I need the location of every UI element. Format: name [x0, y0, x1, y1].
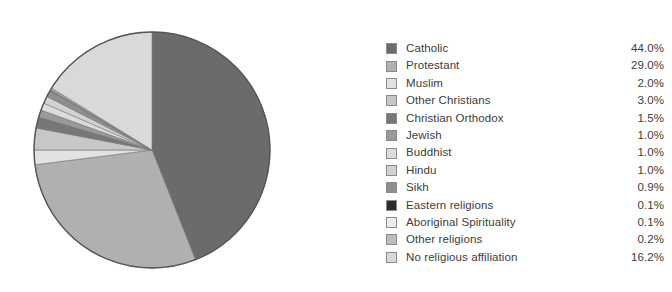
- legend-item[interactable]: Protestant29.0%: [386, 57, 664, 74]
- legend-item-label: Sikh: [406, 179, 612, 196]
- legend-item-value: 1.0%: [612, 162, 664, 179]
- legend-item-value: 29.0%: [612, 57, 664, 74]
- legend-item-label: Eastern religions: [406, 197, 612, 214]
- legend-item-value: 0.1%: [612, 197, 664, 214]
- legend-item[interactable]: Other religions0.2%: [386, 231, 664, 248]
- legend-item[interactable]: Christian Orthodox1.5%: [386, 110, 664, 127]
- pie-chart-figure: Catholic44.0%Protestant29.0%Muslim2.0%Ot…: [0, 0, 672, 292]
- legend-item-label: Hindu: [406, 162, 612, 179]
- legend-item[interactable]: Other Christians3.0%: [386, 92, 664, 109]
- legend-item-label: No religious affiliation: [406, 249, 612, 266]
- legend-item-value: 3.0%: [612, 92, 664, 109]
- legend-item-value: 1.5%: [612, 110, 664, 127]
- legend-item-label: Muslim: [406, 75, 612, 92]
- legend-swatch-icon: [386, 252, 397, 263]
- legend-swatch-icon: [386, 43, 397, 54]
- legend-item[interactable]: Jewish1.0%: [386, 127, 664, 144]
- legend-swatch-icon: [386, 61, 397, 72]
- legend-item[interactable]: Hindu1.0%: [386, 162, 664, 179]
- legend-item-label: Buddhist: [406, 144, 612, 161]
- legend-item-value: 16.2%: [612, 249, 664, 266]
- legend-item-value: 0.2%: [612, 231, 664, 248]
- legend-swatch-icon: [386, 113, 397, 124]
- legend-item-label: Christian Orthodox: [406, 110, 612, 127]
- legend-item-value: 1.0%: [612, 144, 664, 161]
- legend-item-value: 0.1%: [612, 214, 664, 231]
- legend-swatch-icon: [386, 165, 397, 176]
- legend-item[interactable]: Sikh0.9%: [386, 179, 664, 196]
- legend-item-value: 2.0%: [612, 75, 664, 92]
- legend-item[interactable]: Buddhist1.0%: [386, 144, 664, 161]
- legend-item-value: 1.0%: [612, 127, 664, 144]
- legend-item[interactable]: No religious affiliation16.2%: [386, 249, 664, 266]
- legend-swatch-icon: [386, 234, 397, 245]
- legend-item-label: Aboriginal Spirituality: [406, 214, 612, 231]
- pie-chart-svg: [0, 0, 300, 292]
- legend-item-value: 0.9%: [612, 179, 664, 196]
- legend-item-label: Protestant: [406, 57, 612, 74]
- legend-swatch-icon: [386, 130, 397, 141]
- legend-item[interactable]: Catholic44.0%: [386, 40, 664, 57]
- legend-item-label: Jewish: [406, 127, 612, 144]
- pie-chart-area: [0, 0, 300, 292]
- legend-item-value: 44.0%: [612, 40, 664, 57]
- legend-item-label: Other religions: [406, 231, 612, 248]
- legend-swatch-icon: [386, 148, 397, 159]
- legend-swatch-icon: [386, 95, 397, 106]
- legend-swatch-icon: [386, 182, 397, 193]
- chart-legend: Catholic44.0%Protestant29.0%Muslim2.0%Ot…: [386, 40, 664, 266]
- legend-item[interactable]: Aboriginal Spirituality0.1%: [386, 214, 664, 231]
- legend-item[interactable]: Muslim2.0%: [386, 75, 664, 92]
- legend-item-label: Other Christians: [406, 92, 612, 109]
- legend-swatch-icon: [386, 78, 397, 89]
- legend-swatch-icon: [386, 217, 397, 228]
- legend-item-label: Catholic: [406, 40, 612, 57]
- legend-item[interactable]: Eastern religions0.1%: [386, 197, 664, 214]
- legend-swatch-icon: [386, 200, 397, 211]
